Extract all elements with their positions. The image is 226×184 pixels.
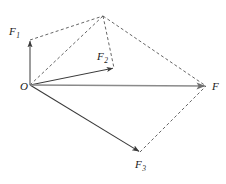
force-diagram: F1F2F3FO (0, 0, 226, 184)
vector-resultant (30, 85, 205, 86)
vector-f3 (30, 85, 139, 151)
label-f1: F1 (8, 25, 20, 40)
vector-f2 (30, 68, 113, 85)
construction-f3-resultant (140, 86, 206, 152)
vector-labels-group: F1F2F3FO (8, 25, 219, 173)
label-f2: F2 (96, 50, 108, 65)
label-resultant: F (211, 80, 219, 92)
vector-diagram-canvas: F1F2F3FO (0, 0, 226, 184)
construction-origin-apex (30, 16, 103, 85)
force-vectors-group (30, 41, 205, 151)
label-f3: F3 (134, 158, 146, 173)
construction-f1-apex (30, 16, 103, 40)
construction-lines-group (30, 16, 206, 152)
label-origin: O (20, 80, 28, 92)
construction-apex-resultant (103, 16, 206, 86)
